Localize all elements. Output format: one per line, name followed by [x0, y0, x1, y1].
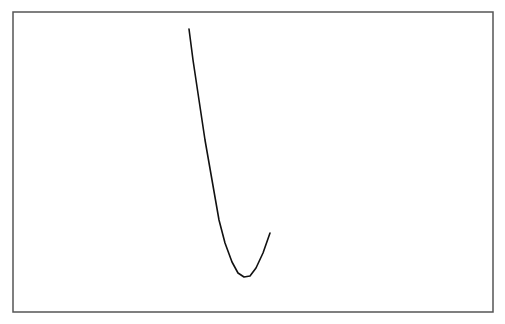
plot-area — [0, 0, 505, 324]
data-curve — [189, 29, 270, 277]
plot-frame — [13, 12, 493, 312]
